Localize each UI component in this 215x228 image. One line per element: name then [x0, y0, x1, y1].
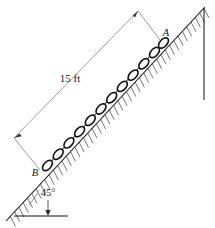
hatch-mark: [88, 133, 93, 143]
hatch-mark: [165, 50, 170, 60]
hatch-mark: [152, 64, 157, 74]
hatch-mark: [62, 161, 67, 171]
dimension-line-group: [14, 11, 160, 170]
hatch-mark: [105, 114, 110, 124]
point-label-a: A: [162, 27, 170, 38]
incline-surface-line: [6, 7, 205, 221]
hatch-mark: [191, 22, 196, 32]
hatch-mark: [79, 142, 84, 152]
hatch-mark: [161, 54, 166, 64]
incline-surface-group: [6, 7, 205, 221]
hatch-mark: [144, 73, 149, 83]
hatch-mark: [92, 128, 97, 138]
chain-link: [137, 57, 151, 71]
hatch-mark: [126, 91, 131, 101]
hatch-mark: [135, 82, 140, 92]
hatch-mark: [83, 138, 88, 148]
hatch-mark: [71, 152, 76, 162]
dimension-extension-top: [138, 11, 160, 40]
figure-container: 15 ft A B 45°: [0, 0, 215, 228]
chain-link: [126, 68, 140, 82]
dimension-arrowhead-top: [133, 11, 139, 18]
hatch-mark: [187, 26, 192, 36]
angle-label: 45°: [41, 187, 56, 198]
hatch-mark: [23, 203, 28, 213]
hatch-mark: [28, 198, 33, 208]
dimension-extension-bottom: [14, 138, 40, 170]
hatch-mark: [75, 147, 80, 157]
hatch-mark: [49, 175, 54, 185]
dimension-length-label: 15 ft: [60, 72, 80, 84]
hatch-mark: [66, 156, 71, 166]
hatch-mark: [169, 45, 174, 55]
hatch-mark: [118, 101, 123, 111]
hatch-mark: [204, 8, 209, 18]
hatch-mark: [157, 59, 162, 69]
chain-link: [41, 159, 55, 173]
hatch-mark: [109, 110, 114, 120]
incline-chain-diagram: 15 ft A B 45°: [0, 0, 215, 228]
hatch-mark: [174, 40, 179, 50]
hatch-mark: [114, 105, 119, 115]
chain-links: [41, 36, 171, 172]
hatch-mark: [96, 124, 101, 134]
hatch-mark: [131, 87, 136, 97]
hatch-mark: [58, 165, 63, 175]
point-label-b: B: [32, 167, 39, 178]
chain-group: [41, 36, 171, 172]
hatch-mark: [15, 212, 20, 222]
hatch-mark: [122, 96, 127, 106]
hatch-mark: [182, 31, 187, 41]
hatch-mark: [195, 17, 200, 27]
hatch-mark: [139, 77, 144, 87]
hatch-mark: [10, 216, 15, 226]
hatch-mark: [53, 170, 58, 180]
angle-arrowhead: [45, 210, 50, 216]
hatch-mark: [148, 68, 153, 78]
hatch-mark: [178, 36, 183, 46]
hatch-mark: [101, 119, 106, 129]
